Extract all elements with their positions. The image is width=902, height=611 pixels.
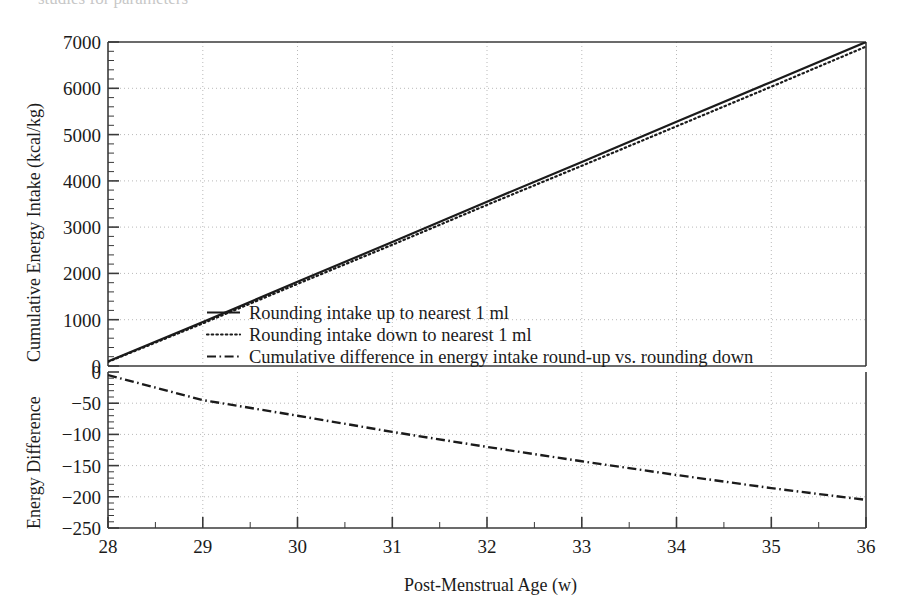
svg-text:29: 29: [193, 536, 212, 557]
svg-text:31: 31: [383, 536, 402, 557]
upper-panel-y-minor-ticks: [108, 51, 114, 356]
svg-text:−150: −150: [62, 456, 101, 477]
series-cumulative-difference-line: [108, 375, 866, 500]
upper-panel-y-major-ticks: [108, 42, 119, 366]
svg-text:1000: 1000: [63, 310, 101, 331]
svg-text:35: 35: [762, 536, 781, 557]
svg-text:5000: 5000: [63, 125, 101, 146]
svg-text:2000: 2000: [63, 263, 101, 284]
svg-text:3000: 3000: [63, 217, 101, 238]
x-axis-tick-labels: 28 29 30 31 32 33 34 35 36: [99, 536, 876, 557]
svg-text:30: 30: [288, 536, 307, 557]
chart-figure: studies for parameters Cumulative Energy…: [0, 0, 902, 611]
lower-panel-y-major-ticks: [108, 372, 119, 528]
lower-panel-y-tick-labels: 0 −50 −100 −150 −200 −250: [62, 362, 101, 539]
svg-text:7000: 7000: [63, 32, 101, 53]
svg-text:−50: −50: [71, 393, 101, 414]
svg-text:−100: −100: [62, 424, 101, 445]
x-axis-major-ticks: [108, 517, 866, 528]
svg-text:6000: 6000: [63, 78, 101, 99]
chart-canvas: 7000 6000 5000 4000 3000 2000 1000 0 Rou…: [0, 0, 902, 611]
svg-text:−200: −200: [62, 487, 101, 508]
upper-panel-y-tick-labels: 7000 6000 5000 4000 3000 2000 1000 0: [63, 32, 101, 377]
svg-text:34: 34: [667, 536, 687, 557]
lower-panel-grid: [108, 372, 866, 528]
svg-text:0: 0: [92, 362, 102, 383]
svg-text:32: 32: [478, 536, 497, 557]
legend-label-rounding-down: Rounding intake down to nearest 1 ml: [249, 325, 532, 345]
svg-text:4000: 4000: [63, 171, 101, 192]
legend-label-cumulative-difference: Cumulative difference in energy intake r…: [249, 347, 753, 367]
svg-text:36: 36: [857, 536, 876, 557]
legend: Rounding intake up to nearest 1 ml Round…: [207, 303, 753, 367]
legend-label-rounding-up: Rounding intake up to nearest 1 ml: [249, 303, 509, 323]
svg-text:−250: −250: [62, 518, 101, 539]
svg-text:28: 28: [99, 536, 118, 557]
svg-text:33: 33: [572, 536, 591, 557]
lower-panel-y-minor-ticks: [108, 378, 114, 522]
